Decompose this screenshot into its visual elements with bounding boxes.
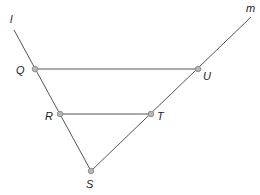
line-m	[91, 17, 251, 171]
line-l-label: l	[10, 13, 13, 25]
line-labels: l m	[10, 2, 255, 25]
point-t	[148, 111, 154, 117]
point-t-label: T	[157, 110, 165, 122]
lines-layer	[14, 17, 251, 171]
line-l	[14, 30, 91, 171]
point-u	[195, 66, 201, 72]
point-q-label: Q	[16, 64, 25, 76]
line-m-label: m	[246, 2, 255, 14]
point-u-label: U	[203, 70, 211, 82]
point-labels: Q U R T S	[16, 64, 211, 190]
point-r	[57, 111, 63, 117]
geometry-diagram: l m Q U R T S	[0, 0, 260, 195]
point-r-label: R	[45, 110, 53, 122]
point-s-label: S	[86, 178, 94, 190]
points-layer	[32, 66, 201, 174]
point-s	[88, 168, 94, 174]
point-q	[32, 66, 38, 72]
